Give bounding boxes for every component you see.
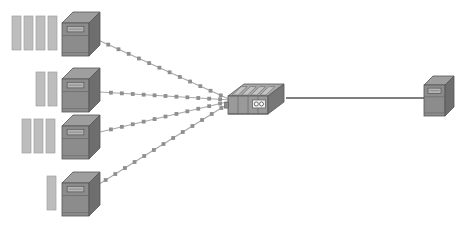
link-server4-to-switch-bead xyxy=(133,160,137,164)
link-server2-to-switch-bead xyxy=(218,97,222,101)
left-server-1-disk-bar xyxy=(24,16,33,50)
left-server-2-disk-bar xyxy=(36,72,45,106)
link-server1-to-switch-bead xyxy=(178,75,182,79)
link-server3-to-switch-bead xyxy=(218,102,222,106)
left-server-2-disk-bars xyxy=(36,72,57,106)
network-diagram xyxy=(0,0,474,229)
link-server3-to-switch-bead xyxy=(142,120,146,124)
link-server2-to-switch-bead xyxy=(207,97,211,101)
link-server4-to-switch-bead xyxy=(200,118,204,122)
link-server2-to-switch-bead xyxy=(131,92,135,96)
left-server-1[interactable] xyxy=(12,12,100,56)
link-server3-to-switch-bead xyxy=(185,109,189,113)
link-server3-to-switch-bead xyxy=(109,128,113,132)
left-server-1-disk-bar xyxy=(12,16,21,50)
left-server-2[interactable] xyxy=(36,68,100,112)
link-server4-to-switch-bead xyxy=(181,130,185,134)
link-server2-to-switch-bead xyxy=(185,95,189,99)
link-server1-to-switch xyxy=(98,40,231,100)
link-server4-to-switch-bead xyxy=(142,154,146,158)
central-network-switch-led xyxy=(254,102,258,106)
link-server4-to-switch-bead xyxy=(171,136,175,140)
link-server3-to-switch-bead xyxy=(207,104,211,108)
link-server2-to-switch-bead xyxy=(109,91,113,95)
link-server4-to-switch-bead xyxy=(191,124,195,128)
link-server4-to-switch xyxy=(96,102,231,186)
link-server3-to-switch-bead xyxy=(196,107,200,111)
link-server4-to-switch-bead xyxy=(219,106,223,110)
link-server4-to-switch-bead xyxy=(113,172,117,176)
left-server-2-disk-bar xyxy=(48,72,57,106)
link-server1-to-switch-bead xyxy=(147,61,151,65)
link-server1-to-switch-bead xyxy=(198,84,202,88)
link-server1-to-switch-bead xyxy=(137,57,141,61)
link-server3-to-switch-bead xyxy=(175,112,179,116)
left-server-4[interactable] xyxy=(47,172,100,216)
nodes-layer xyxy=(12,12,454,216)
left-server-1-disk-bars xyxy=(12,16,57,50)
link-server3-to-switch-bead xyxy=(153,117,157,121)
link-server4-to-switch-bead xyxy=(152,148,156,152)
left-server-3[interactable] xyxy=(22,115,100,159)
link-server4-to-switch-bead xyxy=(104,178,108,182)
left-server-3-disk-bar xyxy=(46,119,55,153)
link-server1-to-switch-bead xyxy=(117,47,121,51)
link-server2-to-switch-bead xyxy=(175,95,179,99)
left-server-4-disk-bar xyxy=(47,176,56,210)
link-server2-to-switch-bead xyxy=(196,96,200,100)
link-server3-to-switch-bead xyxy=(164,115,168,119)
left-server-3-disk-bars xyxy=(22,119,55,153)
left-server-1-disk-bar xyxy=(48,16,57,50)
diagram-svg xyxy=(0,0,474,229)
right-server[interactable] xyxy=(424,76,454,116)
left-server-1-disk-bar xyxy=(36,16,45,50)
link-server3-to-switch xyxy=(100,101,231,132)
left-server-3-disk-bar xyxy=(34,119,43,153)
link-server1-to-switch-bead xyxy=(168,70,172,74)
central-network-switch-left-connector xyxy=(225,102,229,108)
link-server2-to-switch-bead xyxy=(164,94,168,98)
link-server3-to-switch-bead xyxy=(131,122,135,126)
central-network-switch[interactable] xyxy=(225,84,285,114)
link-server4-to-switch-bead xyxy=(162,142,166,146)
link-server1-to-switch-bead xyxy=(106,43,110,47)
link-server1-to-switch-bead xyxy=(188,80,192,84)
left-server-3-disk-bar xyxy=(22,119,31,153)
link-server1-to-switch-bead xyxy=(219,93,223,97)
link-server4-to-switch-bead xyxy=(123,166,127,170)
link-server1-to-switch-bead xyxy=(127,52,131,56)
link-server1-to-switch-bead xyxy=(209,89,213,93)
link-server2-to-switch-bead xyxy=(153,93,157,97)
central-network-switch-led xyxy=(260,102,264,106)
link-server3-to-switch-bead xyxy=(120,125,124,129)
link-server1-to-switch-bead xyxy=(157,66,161,70)
link-server4-to-switch-bead xyxy=(210,112,214,116)
left-server-4-disk-bars xyxy=(47,176,56,210)
link-server2-to-switch-bead xyxy=(142,93,146,97)
link-server2-to-switch-bead xyxy=(120,91,124,95)
